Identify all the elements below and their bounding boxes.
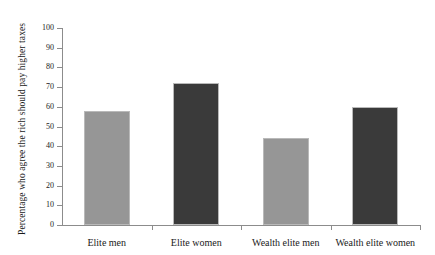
- x-tick-mark: [420, 225, 421, 230]
- y-tick-label: 60: [46, 101, 54, 112]
- y-tick-mark: 20: [57, 186, 62, 187]
- bar: [173, 83, 219, 225]
- y-tick-mark: 40: [57, 146, 62, 147]
- y-tick-mark: 10: [57, 205, 62, 206]
- y-tick-mark: 0: [57, 225, 62, 226]
- y-tick-mark: 50: [57, 127, 62, 128]
- bar: [84, 111, 130, 225]
- y-tick-label: 70: [46, 81, 54, 92]
- y-tick-label: 10: [46, 199, 54, 210]
- x-tick-mark: [152, 225, 153, 230]
- y-tick-mark: 100: [57, 28, 62, 29]
- y-tick-label: 30: [46, 160, 54, 171]
- y-tick-label: 100: [42, 22, 54, 33]
- y-tick-label: 40: [46, 140, 54, 151]
- x-axis-label: Elite women: [152, 236, 242, 249]
- bar: [263, 138, 309, 225]
- plot-area: 0102030405060708090100 Elite menElite wo…: [62, 28, 420, 225]
- bar-chart: Percentage who agree the rich should pay…: [0, 0, 435, 255]
- y-tick-mark: 70: [57, 87, 62, 88]
- y-tick-label: 20: [46, 180, 54, 191]
- y-tick-label: 50: [46, 121, 54, 132]
- y-tick-label: 0: [50, 219, 54, 230]
- x-axis-label: Elite men: [62, 236, 152, 249]
- y-tick-mark: 90: [57, 48, 62, 49]
- y-tick-label: 80: [46, 61, 54, 72]
- x-tick-mark: [241, 225, 242, 230]
- y-tick-mark: 60: [57, 107, 62, 108]
- x-tick-mark: [331, 225, 332, 230]
- y-tick-mark: 80: [57, 67, 62, 68]
- x-axis-label: Wealth elite women: [331, 236, 421, 249]
- y-axis-line: [62, 28, 63, 225]
- y-axis-title: Percentage who agree the rich should pay…: [15, 25, 29, 235]
- y-tick-label: 90: [46, 42, 54, 53]
- y-tick-mark: 30: [57, 166, 62, 167]
- x-axis-label: Wealth elite men: [241, 236, 331, 249]
- bar: [352, 107, 398, 225]
